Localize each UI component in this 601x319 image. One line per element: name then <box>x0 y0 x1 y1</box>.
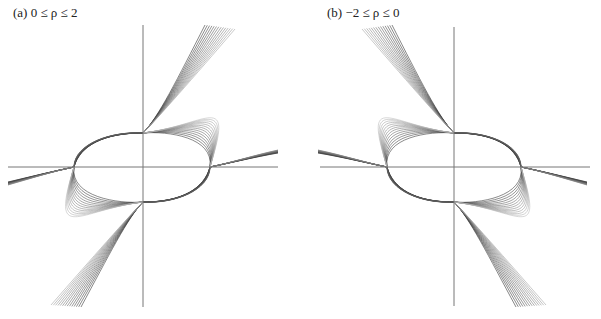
lower-tail <box>454 202 532 306</box>
upper-loop <box>143 132 211 167</box>
lower-tail <box>454 202 521 307</box>
right-tail <box>318 150 387 167</box>
lower-loop <box>73 167 143 204</box>
upper-loop <box>387 133 454 167</box>
upper-tail <box>392 25 454 133</box>
curve-family-plot-b <box>301 0 601 319</box>
upper-loop <box>143 131 211 167</box>
upper-tail <box>143 26 210 133</box>
lower-tail <box>81 202 143 307</box>
upper-tail <box>143 25 205 133</box>
upper-loop <box>143 132 210 167</box>
panel-a: (a) 0 ≤ ρ ≤ 2 <box>0 0 300 319</box>
panel-b-label: (b) −2 ≤ ρ ≤ 0 <box>327 5 400 21</box>
upper-tail <box>385 26 454 133</box>
lower-tail <box>79 202 143 307</box>
upper-loop <box>386 131 454 167</box>
lower-loop <box>454 167 522 204</box>
upper-loop <box>386 132 454 167</box>
lower-loop <box>454 167 523 205</box>
upper-left-arc <box>74 133 143 167</box>
lower-loop <box>72 167 143 206</box>
lower-right-arc <box>143 167 210 202</box>
upper-tail <box>387 26 454 133</box>
curve-family-plot-a <box>0 0 300 319</box>
lower-loop <box>454 167 521 202</box>
left-tail <box>521 167 587 185</box>
panel-a-label: (a) 0 ≤ ρ ≤ 2 <box>13 5 77 21</box>
upper-loop <box>385 130 454 167</box>
lower-loop <box>74 167 143 202</box>
lower-right-arc <box>387 167 454 202</box>
upper-loop <box>387 132 454 167</box>
upper-tail <box>383 26 454 133</box>
lower-loop <box>454 167 521 203</box>
lower-loop <box>72 167 143 205</box>
upper-left-arc <box>454 133 521 167</box>
upper-tail <box>390 25 454 133</box>
lower-tail <box>76 202 143 307</box>
upper-tail <box>143 25 207 133</box>
panel-b: (b) −2 ≤ ρ ≤ 0 <box>301 0 601 319</box>
right-tail <box>210 150 278 167</box>
upper-tail <box>143 26 214 133</box>
lower-tail <box>454 202 518 307</box>
lower-tail <box>454 202 516 307</box>
curves-group <box>318 25 587 307</box>
upper-loop <box>143 133 210 167</box>
lower-tail <box>65 202 143 306</box>
left-tail <box>8 167 74 185</box>
upper-tail <box>143 26 212 133</box>
upper-loop <box>143 130 212 167</box>
